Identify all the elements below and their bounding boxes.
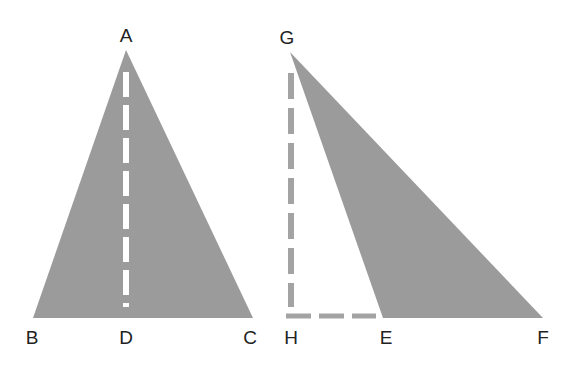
vertex-label-h: H bbox=[284, 328, 298, 347]
triangle-gef bbox=[290, 52, 543, 318]
vertex-label-g: G bbox=[280, 28, 295, 47]
vertex-label-e: E bbox=[380, 328, 393, 347]
diagram-canvas bbox=[0, 0, 567, 367]
vertex-label-d: D bbox=[119, 328, 133, 347]
vertex-label-f: F bbox=[537, 328, 549, 347]
vertex-label-b: B bbox=[26, 328, 39, 347]
vertex-label-c: C bbox=[243, 328, 257, 347]
triangle-abc bbox=[33, 50, 253, 318]
vertex-label-a: A bbox=[120, 26, 133, 45]
